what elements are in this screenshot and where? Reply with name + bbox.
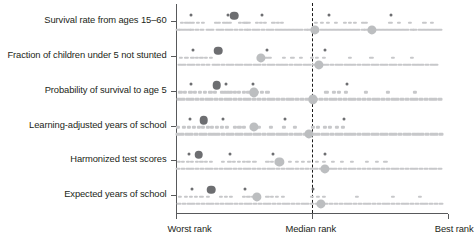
- y-axis-tick: [171, 91, 176, 92]
- data-point-upper: [322, 126, 326, 128]
- data-point-upper: [241, 161, 245, 163]
- x-axis-tick: [312, 214, 313, 219]
- data-point-upper: [196, 22, 200, 24]
- data-point-upper: [430, 22, 434, 24]
- data-point-small: [189, 118, 192, 121]
- data-point-lower: [437, 98, 442, 101]
- highlighted-data-point: [207, 185, 216, 194]
- x-axis-label: Median rank: [286, 223, 337, 234]
- data-point-small: [261, 13, 264, 16]
- data-point-upper: [334, 22, 338, 24]
- data-point-small: [243, 187, 246, 190]
- data-point-small: [221, 118, 224, 121]
- data-point-small: [189, 13, 192, 16]
- data-point-upper: [204, 56, 208, 58]
- data-point-upper: [267, 56, 271, 58]
- data-point-upper: [422, 22, 426, 24]
- data-point-upper: [347, 22, 351, 24]
- y-axis-label: Fraction of children under 5 not stunted: [0, 50, 167, 60]
- data-point-upper: [195, 56, 199, 58]
- data-point-upper: [331, 161, 335, 163]
- data-point-upper: [194, 195, 198, 197]
- data-point-upper: [307, 161, 311, 163]
- data-point-upper: [198, 91, 202, 93]
- data-point-upper: [316, 195, 320, 197]
- data-point-upper: [191, 22, 195, 24]
- highlighted-data-point: [249, 123, 258, 132]
- data-point-upper: [386, 91, 390, 93]
- data-point-upper: [188, 91, 192, 93]
- data-point-upper: [187, 126, 191, 128]
- data-point-upper: [397, 22, 401, 24]
- data-point-lower: [438, 202, 443, 205]
- data-point-upper: [263, 22, 267, 24]
- data-point-small: [229, 152, 232, 155]
- highlighted-data-point: [308, 95, 317, 104]
- data-point-lower: [437, 29, 442, 32]
- data-point-upper: [275, 195, 279, 197]
- data-point-lower: [200, 29, 205, 32]
- data-point-small: [284, 118, 287, 121]
- y-axis-label: Harmonized test scores: [0, 154, 167, 164]
- data-point-upper: [388, 22, 392, 24]
- data-point-upper: [334, 126, 338, 128]
- data-point-small: [272, 152, 275, 155]
- y-axis-tick: [171, 126, 176, 127]
- y-axis-label: Probability of survival to age 5: [0, 85, 167, 95]
- data-point-upper: [281, 195, 285, 197]
- data-point-upper: [179, 56, 183, 58]
- data-point-upper: [288, 161, 292, 163]
- data-point-upper: [209, 161, 213, 163]
- data-point-upper: [183, 91, 187, 93]
- data-point-upper: [221, 161, 225, 163]
- y-axis-label: Expected years of school: [0, 189, 167, 199]
- highlighted-data-point: [316, 199, 325, 208]
- data-point-upper: [269, 126, 273, 128]
- data-point-upper: [195, 161, 199, 163]
- highlighted-data-point: [253, 192, 262, 201]
- data-point-small: [390, 13, 393, 16]
- highlighted-data-point: [310, 25, 319, 34]
- data-point-upper: [246, 161, 250, 163]
- data-point-upper: [322, 56, 326, 58]
- data-point-upper: [328, 126, 332, 128]
- data-point-upper: [184, 56, 188, 58]
- data-point-lower: [434, 63, 439, 66]
- data-point-upper: [301, 161, 305, 163]
- data-point-lower: [210, 29, 215, 32]
- data-point-upper: [237, 161, 241, 163]
- highlighted-data-point: [320, 164, 329, 173]
- data-point-upper: [315, 56, 319, 58]
- x-axis-label: Best rank: [435, 223, 474, 234]
- data-point-upper: [210, 126, 214, 128]
- data-point-upper: [265, 161, 269, 163]
- highlighted-data-point: [194, 151, 203, 160]
- data-point-upper: [242, 126, 246, 128]
- data-point-small: [311, 187, 314, 190]
- data-point-upper: [282, 126, 286, 128]
- data-point-upper: [270, 161, 274, 163]
- data-point-upper: [410, 56, 414, 58]
- data-point-upper: [343, 22, 347, 24]
- y-axis-tick: [171, 195, 176, 196]
- data-point-upper: [324, 91, 328, 93]
- data-point-upper: [347, 56, 351, 58]
- data-point-upper: [293, 126, 297, 128]
- y-axis-line: [176, 4, 177, 213]
- data-point-upper: [215, 126, 219, 128]
- data-point-upper: [184, 195, 188, 197]
- data-point-upper: [341, 126, 345, 128]
- data-point-small: [225, 83, 228, 86]
- data-point-small: [187, 152, 190, 155]
- data-point-upper: [355, 195, 359, 197]
- data-point-upper: [320, 22, 324, 24]
- data-point-upper: [260, 91, 264, 93]
- data-point-upper: [219, 195, 223, 197]
- data-point-upper: [177, 195, 181, 197]
- data-point-lower: [438, 133, 443, 136]
- data-point-upper: [340, 161, 344, 163]
- data-point-upper: [246, 22, 250, 24]
- data-point-upper: [369, 56, 373, 58]
- data-point-small: [345, 83, 348, 86]
